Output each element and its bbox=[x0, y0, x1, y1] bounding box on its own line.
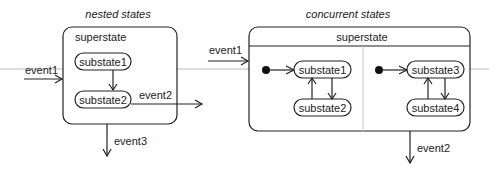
concurrent-superstate-label: superstate bbox=[336, 31, 387, 43]
concurrent-substate3-label: substate3 bbox=[412, 64, 460, 76]
nested-event1-label: event1 bbox=[25, 64, 58, 76]
initial-state-icon bbox=[262, 66, 270, 74]
concurrent-event2-label: event2 bbox=[417, 142, 450, 154]
concurrent-title: concurrent states bbox=[306, 8, 391, 20]
concurrent-substate2-label: substate2 bbox=[299, 102, 347, 114]
concurrent-substate1-label: substate1 bbox=[299, 64, 347, 76]
nested-superstate-label: superstate bbox=[75, 31, 126, 43]
concurrent-event1-label: event1 bbox=[209, 44, 242, 56]
initial-state-icon bbox=[375, 66, 383, 74]
nested-event3-label: event3 bbox=[114, 135, 147, 147]
nested-title: nested states bbox=[85, 8, 151, 20]
nested-event2-label: event2 bbox=[139, 89, 172, 101]
concurrent-substate4-label: substate4 bbox=[412, 102, 460, 114]
nested-states-diagram: nested states superstate substate1 subst… bbox=[24, 8, 202, 156]
concurrent-states-diagram: concurrent states superstate event1 subs… bbox=[208, 8, 470, 163]
nested-substate2-label: substate2 bbox=[79, 94, 127, 106]
nested-substate1-label: substate1 bbox=[79, 56, 127, 68]
state-diagram: nested states superstate substate1 subst… bbox=[0, 0, 489, 169]
